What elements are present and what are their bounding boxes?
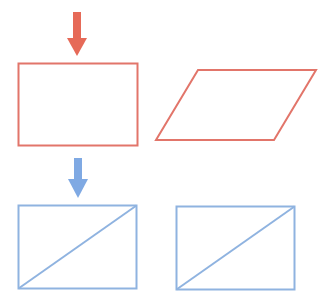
red-parallelogram [156, 70, 316, 140]
diagonal-line [19, 206, 137, 289]
red-rectangle [19, 64, 138, 146]
blue-down-arrow-icon [68, 158, 88, 198]
red-down-arrow-icon [67, 12, 87, 56]
diagram-canvas [0, 0, 330, 302]
blue-rectangle-left [19, 206, 137, 289]
blue-rectangle-right [177, 207, 295, 290]
diagonal-line [177, 207, 295, 290]
